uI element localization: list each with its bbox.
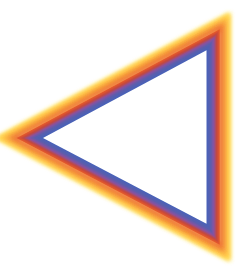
triangle-svg xyxy=(0,0,237,267)
image-canvas xyxy=(0,0,237,267)
gradient-triangle-figure xyxy=(0,0,237,267)
